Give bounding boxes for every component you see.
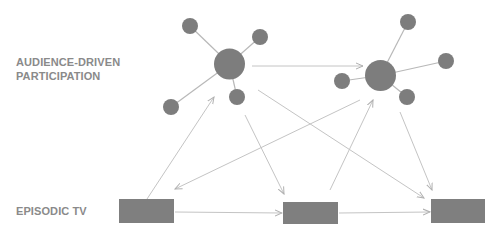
right-hub-node: [365, 60, 396, 91]
episode-block-1: [119, 199, 174, 223]
arrow-right-hub-to-episode-3: [400, 112, 432, 190]
episode-block-2: [283, 202, 338, 224]
arrow-episode-1-to-left-hub: [147, 97, 214, 199]
arrow-left-hub-to-episode-3: [258, 90, 424, 198]
episode-block-3: [431, 199, 485, 223]
left-satellite-node: [229, 89, 245, 105]
arrow-episode-2-to-right-hub: [330, 100, 373, 190]
nodes-layer: [163, 14, 454, 115]
left-satellite-node: [252, 29, 268, 45]
right-satellite-node: [334, 73, 350, 89]
arrow-episode-1-to-episode-2: [175, 212, 282, 213]
right-satellite-node: [400, 14, 416, 30]
participation-diagram: [0, 0, 495, 230]
left-satellite-node: [182, 18, 198, 34]
right-satellite-node: [438, 53, 454, 69]
episodes-layer: [119, 199, 485, 224]
left-hub-node: [214, 49, 245, 80]
arrow-episode-2-to-episode-3: [339, 212, 430, 213]
left-satellite-node: [163, 99, 179, 115]
arrow-left-hub-to-episode-2: [245, 115, 284, 194]
right-satellite-node: [399, 89, 415, 105]
